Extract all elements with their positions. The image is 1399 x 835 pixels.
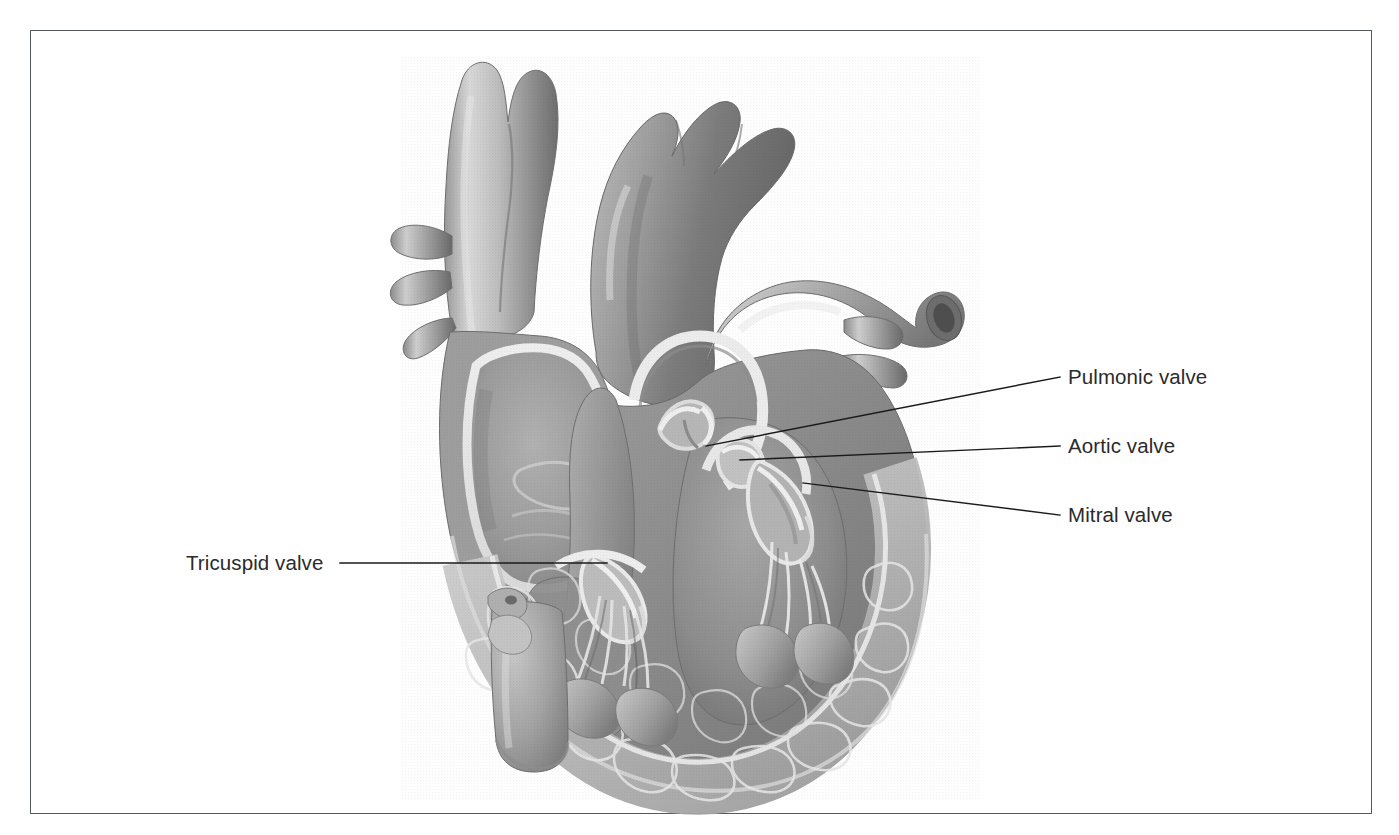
halftone-overlay [400, 56, 980, 800]
figure-root: Pulmonic valve Aortic valve Mitral valve… [0, 0, 1399, 835]
label-aortic-valve: Aortic valve [1068, 436, 1175, 457]
label-mitral-valve: Mitral valve [1068, 505, 1173, 526]
heart-illustration [0, 0, 1399, 835]
label-pulmonic-valve: Pulmonic valve [1068, 367, 1207, 388]
label-tricuspid-valve: Tricuspid valve [186, 553, 323, 574]
heart-illustration-svg [0, 0, 1399, 835]
